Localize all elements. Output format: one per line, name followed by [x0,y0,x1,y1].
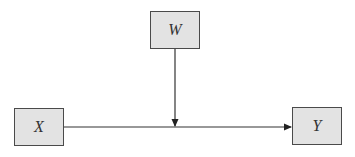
node-w-moderator: W [150,11,200,49]
node-x-label: X [34,118,44,136]
node-w-label: W [168,21,181,39]
node-y-outcome: Y [292,107,342,145]
node-x-predictor: X [14,108,64,146]
node-y-label: Y [313,117,322,135]
